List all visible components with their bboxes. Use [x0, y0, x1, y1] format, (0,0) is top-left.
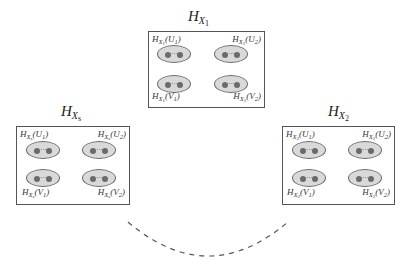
dashed-arc-connector	[0, 0, 404, 275]
